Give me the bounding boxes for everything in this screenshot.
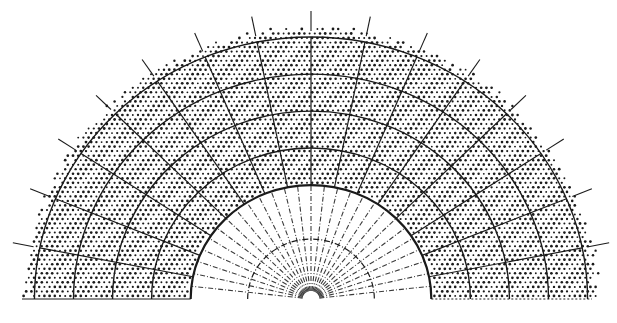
- stipple-dot: [189, 77, 192, 80]
- stipple-dot: [319, 78, 321, 80]
- stipple-dot: [202, 100, 204, 102]
- stipple-dot: [126, 268, 128, 270]
- stipple-dot: [436, 100, 439, 103]
- inner-dashed-spoke: [236, 210, 306, 293]
- stipple-dot: [165, 172, 168, 175]
- stipple-dot: [425, 82, 427, 84]
- stipple-dot: [61, 236, 64, 239]
- stipple-dot: [98, 136, 101, 139]
- stipple-dot: [592, 263, 595, 266]
- stipple-dot: [347, 55, 350, 58]
- stipple-dot: [106, 159, 108, 161]
- stipple-dot: [150, 181, 153, 184]
- stipple-dot: [558, 286, 561, 289]
- stipple-dot: [451, 64, 454, 67]
- stipple-dot: [77, 137, 79, 139]
- stipple-dot: [423, 222, 425, 224]
- stipple-dot: [67, 218, 69, 220]
- stipple-dot: [163, 168, 166, 171]
- stipple-dot: [90, 204, 93, 207]
- stipple-dot: [142, 78, 144, 80]
- stipple-dot: [254, 182, 256, 184]
- stipple-dot: [454, 177, 456, 179]
- stipple-dot: [199, 240, 202, 243]
- stipple-dot: [256, 186, 259, 189]
- stipple-dot: [197, 64, 199, 66]
- stipple-dot: [259, 109, 262, 112]
- stipple-dot: [90, 268, 92, 270]
- stipple-dot: [454, 186, 457, 189]
- stipple-dot: [436, 191, 438, 193]
- stipple-dot: [337, 155, 339, 157]
- stipple-dot: [571, 290, 573, 292]
- stipple-dot: [134, 236, 136, 238]
- stipple-dot: [397, 150, 399, 152]
- stipple-dot: [326, 154, 329, 157]
- stipple-dot: [38, 276, 41, 279]
- stipple-dot: [72, 154, 75, 157]
- stipple-dot: [160, 182, 162, 184]
- stipple-dot: [402, 150, 404, 152]
- stipple-dot: [132, 159, 134, 161]
- stipple-dot: [332, 155, 334, 157]
- stipple-dot: [488, 146, 490, 148]
- stipple-dot: [469, 222, 472, 225]
- stipple-dot: [163, 105, 166, 108]
- stipple-dot: [140, 182, 142, 184]
- stipple-dot: [441, 127, 444, 130]
- stipple-dot: [350, 177, 353, 180]
- stipple-dot: [558, 267, 561, 270]
- stipple-dot: [475, 277, 477, 279]
- stipple-dot: [475, 150, 477, 152]
- stipple-dot: [553, 267, 556, 270]
- stipple-dot: [61, 227, 63, 229]
- stipple-dot: [462, 263, 464, 265]
- stipple-dot: [181, 200, 184, 203]
- stipple-dot: [394, 136, 397, 139]
- stipple-dot: [366, 123, 369, 126]
- stipple-dot: [488, 191, 490, 193]
- stipple-dot: [384, 73, 387, 76]
- stipple-dot: [454, 123, 456, 125]
- stipple-dot: [129, 145, 131, 147]
- stipple-dot: [108, 227, 110, 229]
- stipple-dot: [586, 263, 589, 266]
- stipple-dot: [85, 258, 88, 261]
- stipple-dot: [285, 145, 287, 147]
- stipple-dot: [397, 204, 399, 206]
- stipple-dot: [184, 87, 187, 90]
- stipple-dot: [446, 127, 448, 129]
- stipple-dot: [132, 231, 134, 233]
- stipple-dot: [90, 258, 93, 261]
- stipple-dot: [516, 150, 519, 153]
- stipple-dot: [290, 136, 293, 139]
- stipple-dot: [563, 223, 565, 225]
- stipple-dot: [40, 209, 43, 212]
- stipple-dot: [160, 73, 163, 76]
- stipple-dot: [404, 154, 407, 157]
- stipple-dot: [574, 241, 576, 243]
- stipple-dot: [363, 100, 366, 103]
- stipple-dot: [537, 186, 540, 189]
- stipple-dot: [267, 150, 270, 153]
- stipple-dot: [186, 263, 188, 265]
- stipple-dot: [449, 78, 451, 80]
- stipple-dot: [389, 209, 391, 211]
- stipple-dot: [134, 218, 137, 221]
- stipple-dot: [558, 250, 560, 252]
- stipple-dot: [514, 209, 517, 212]
- stipple-dot: [529, 163, 532, 166]
- stipple-dot: [259, 73, 261, 75]
- stipple-dot: [69, 177, 72, 180]
- stipple-dot: [516, 249, 519, 252]
- stipple-dot: [170, 145, 173, 148]
- stipple-dot: [199, 186, 202, 189]
- stipple-dot: [342, 73, 344, 75]
- stipple-dot: [92, 281, 95, 284]
- stipple-dot: [420, 73, 423, 76]
- stipple-dot: [280, 145, 283, 148]
- stipple-dot: [241, 77, 244, 80]
- stipple-dot: [290, 100, 292, 102]
- stipple-dot: [72, 209, 74, 211]
- stipple-dot: [251, 60, 253, 62]
